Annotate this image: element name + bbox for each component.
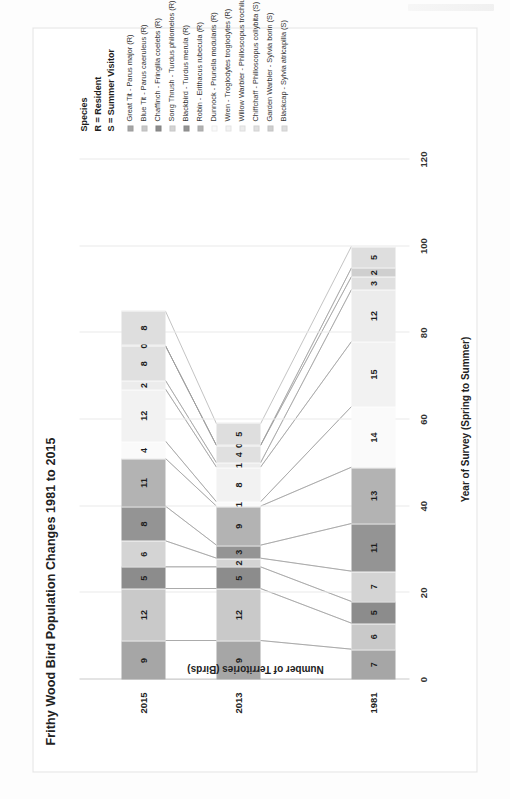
bar-segment: 1 (217, 501, 261, 505)
bar-value-label: 12 (139, 610, 148, 620)
bar-value-label: 5 (369, 610, 378, 615)
legend-item[interactable]: Blackcap - Sylvia atricapilla (S) (279, 31, 288, 131)
bar-value-label: 15 (369, 369, 378, 379)
legend-item-label: Wren - Troglodytes troglodytes (R) (223, 8, 232, 121)
legend-title-line-3: S = Summer Visitor (105, 31, 119, 131)
bar-value-label: 2 (139, 382, 148, 387)
bar-value-label: 12 (369, 311, 378, 321)
legend-swatch-icon (127, 125, 133, 131)
bar-segment: 8 (217, 467, 261, 502)
bar-value-label: 3 (234, 549, 243, 554)
bar-value-label: 2 (369, 270, 378, 275)
rotated-chart-wrapper: Frithy Wood Bird Population Changes 1981… (0, 0, 510, 799)
legend-swatch-icon (267, 125, 273, 131)
legend: Species R = Resident S = Summer Visitor … (78, 31, 294, 131)
legend-item-label: Blackbird - Turdus merula (R) (181, 24, 190, 121)
bar-value-label: 9 (139, 658, 148, 663)
legend-item[interactable]: Blackbird - Turdus merula (R) (181, 31, 190, 131)
y-axis-label: Number of Territories (Birds) (187, 663, 324, 674)
bar-segment: 12 (122, 389, 166, 441)
legend-swatch-icon (281, 125, 287, 131)
x-category-label: 1981 (368, 692, 379, 713)
bar-value-label: 5 (234, 575, 243, 580)
bar-row: 9125239181405 (217, 422, 261, 679)
y-tick-label: 40 (418, 500, 429, 511)
legend-title: Species R = Resident S = Summer Visitor (78, 31, 119, 131)
bar-segment: 2 (217, 558, 261, 567)
bar-value-label: 7 (369, 662, 378, 667)
legend-item-label: Dunnock - Prunella modularis (R) (209, 12, 218, 121)
legend-swatch-icon (155, 125, 161, 131)
legend-swatch-icon (141, 125, 147, 131)
bar-value-label: 14 (369, 432, 378, 442)
bar-segment: 3 (217, 545, 261, 558)
bar-value-label: 1 (234, 502, 243, 507)
y-tick-label: 20 (418, 587, 429, 598)
legend-item[interactable]: Song Thrush - Turdus philomelos (R) (167, 31, 176, 131)
bar-segment: 11 (122, 458, 166, 506)
legend-item[interactable]: Willow Warbler - Philloscopus trochilus … (237, 31, 246, 131)
legend-swatch-icon (197, 125, 203, 131)
bar-value-label: 11 (139, 478, 148, 488)
legend-title-line-2: R = Resident (91, 31, 105, 131)
bar-segment: 1 (217, 462, 261, 466)
legend-item[interactable]: Great Tit - Parus major (R) (125, 31, 134, 131)
bar-segment: 13 (352, 467, 396, 523)
bar-value-label: 4 (234, 452, 243, 457)
legend-swatch-icon (183, 125, 189, 131)
bar-value-label: 7 (369, 584, 378, 589)
bar-segment: 12 (352, 289, 396, 341)
plot-area: 0204060801001207657111314151232519819125… (80, 159, 410, 679)
legend-item[interactable]: Blue Tit - Parus caeruleus (R) (139, 31, 148, 131)
legend-item[interactable]: Chaffinch - Fringilla coelebs (R) (153, 31, 162, 131)
x-axis-label: Year of Survey (Spring to Summer) (460, 159, 471, 679)
legend-item[interactable]: Dunnock - Prunella modularis (R) (209, 31, 218, 131)
legend-item[interactable]: Garden Warbler - Sylvia borin (S) (265, 31, 274, 131)
gridline (80, 158, 410, 159)
bar-value-label: 9 (234, 523, 243, 528)
bar-value-label: 1 (234, 463, 243, 468)
legend-item-label: Great Tit - Parus major (R) (125, 34, 134, 121)
bar-segment: 6 (352, 623, 396, 649)
bar-segment: 9 (122, 640, 166, 679)
legend-item-label: Robin - Erithacus rubecula (R) (195, 22, 204, 121)
bar-value-label: 2 (234, 560, 243, 565)
bar-value-label: 8 (139, 361, 148, 366)
legend-item-label: Chiffchaff - Philloscopus collybita (S) (251, 1, 260, 121)
legend-swatch-icon (253, 125, 259, 131)
legend-item[interactable]: Wren - Troglodytes troglodytes (R) (223, 31, 232, 131)
bar-value-label: 11 (369, 543, 378, 553)
y-tick-label: 80 (418, 327, 429, 338)
bar-value-label: 8 (139, 325, 148, 330)
bar-segment: 12 (122, 588, 166, 640)
x-category-label: 2013 (233, 692, 244, 713)
bar-value-label: 12 (139, 410, 148, 420)
bar-value-label: 8 (139, 521, 148, 526)
legend-swatch-icon (169, 125, 175, 131)
bar-segment: 8 (122, 506, 166, 541)
legend-item[interactable]: Chiffchaff - Philloscopus collybita (S) (251, 31, 260, 131)
bar-value-label: 6 (369, 634, 378, 639)
legend-item-label: Song Thrush - Turdus philomelos (R) (167, 0, 176, 121)
legend-item-label: Blackcap - Sylvia atricapilla (S) (279, 20, 288, 121)
legend-items: Great Tit - Parus major (R)Blue Tit - Pa… (125, 31, 288, 131)
legend-item-label: Willow Warbler - Philloscopus trochilus … (237, 0, 246, 121)
bar-segment: 14 (352, 406, 396, 467)
bar-segment: 8 (122, 310, 166, 345)
y-tick-label: 0 (418, 676, 429, 681)
bar-value-label: 13 (369, 490, 378, 500)
bar-segment: 2 (122, 380, 166, 389)
bar-value-label: 3 (369, 281, 378, 286)
legend-item-label: Garden Warbler - Sylvia borin (S) (265, 12, 274, 121)
bar-segment: 5 (217, 566, 261, 588)
bar-value-label: 8 (234, 482, 243, 487)
bar-segment: 12 (217, 588, 261, 640)
bar-value-label: 4 (139, 447, 148, 452)
legend-item[interactable]: Robin - Erithacus rubecula (R) (195, 31, 204, 131)
legend-item-label: Blue Tit - Parus caeruleus (R) (139, 24, 148, 121)
bar-segment: 4 (122, 441, 166, 458)
legend-item-label: Chaffinch - Fringilla coelebs (R) (153, 18, 162, 121)
scanned-page: Frithy Wood Bird Population Changes 1981… (0, 0, 510, 799)
bar-segment: 15 (352, 341, 396, 406)
bar-value-label: 6 (139, 551, 148, 556)
